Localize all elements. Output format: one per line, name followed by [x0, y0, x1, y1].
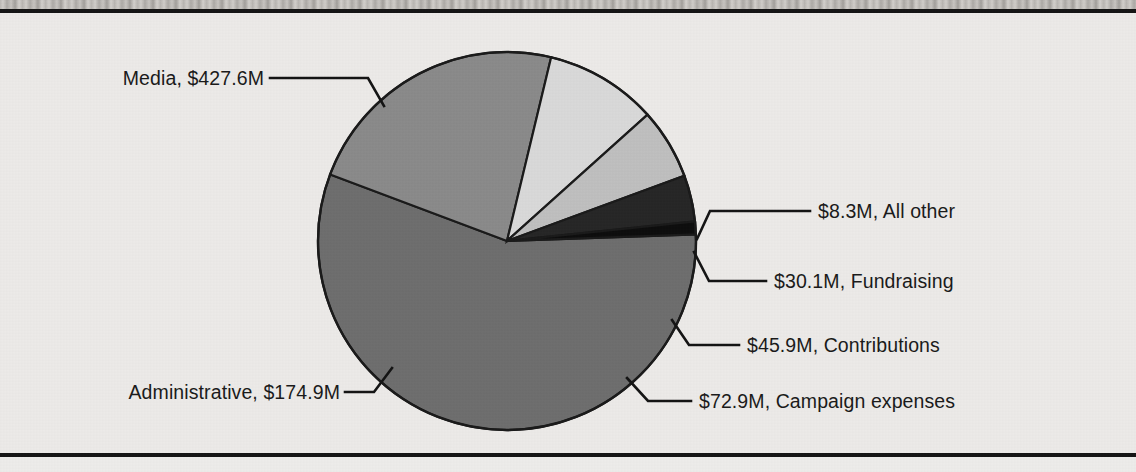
leader-line-fundraising	[694, 252, 766, 281]
pie-label-administrative: Administrative, $174.9M	[6, 381, 340, 404]
pie-slices	[318, 52, 696, 430]
pie-label-media: Media, $427.6M	[6, 67, 264, 90]
leader-line-campaign-expenses	[627, 378, 691, 401]
leader-line-contributions	[672, 320, 739, 345]
pie-label-contributions: $45.9M, Contributions	[747, 334, 940, 357]
leader-line-all-other	[697, 211, 810, 239]
leader-line-media	[270, 78, 384, 106]
bottom-divider-rule	[0, 453, 1136, 457]
pie-label-fundraising: $30.1M, Fundraising	[774, 270, 954, 293]
pie-label-all-other: $8.3M, All other	[818, 200, 955, 223]
pie-label-campaign-expenses: $72.9M, Campaign expenses	[699, 390, 955, 413]
chart-page: Media, $427.6M Administrative, $174.9M $…	[0, 0, 1136, 472]
